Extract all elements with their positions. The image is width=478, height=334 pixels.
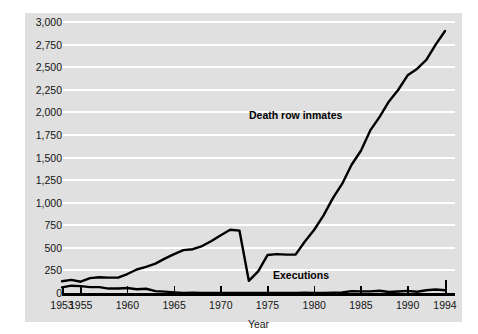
y-axis-tick-label: 1,250 [36, 175, 62, 186]
y-axis-labels: 02505007501,0001,2501,5001,7502,0002,250… [25, 13, 62, 322]
x-axis-title: Year [62, 318, 455, 330]
y-axis-tick-label: 500 [44, 243, 62, 254]
y-axis-tick-label: 2,000 [36, 107, 62, 118]
series-line-executions [62, 286, 445, 293]
x-axis-tick-label: 1985 [349, 300, 372, 311]
x-axis-tick-label: 1955 [69, 300, 92, 311]
x-axis-tick-mark [360, 286, 362, 294]
y-axis-tick-label: 2,250 [36, 85, 62, 96]
y-axis-tick-label: 2,500 [36, 62, 62, 73]
annotation-death-row-inmates: Death row inmates [249, 110, 342, 121]
y-axis-tick-label: 1,750 [36, 130, 62, 141]
x-axis-tick-mark [80, 286, 82, 294]
y-axis-tick-label: 1,000 [36, 198, 62, 209]
data-series-layer [62, 22, 455, 293]
y-axis-tick-label: 3,000 [36, 17, 62, 28]
x-axis-tick-mark [62, 286, 64, 294]
x-axis-tick-mark [220, 286, 222, 294]
x-axis-tick-mark [174, 286, 176, 294]
x-axis-tick-label: 1970 [209, 300, 232, 311]
y-axis-tick-label: 1,500 [36, 153, 62, 164]
y-axis-tick-label: 750 [44, 220, 62, 231]
x-axis-tick-mark [267, 286, 269, 294]
x-axis-tick-label: 1965 [162, 300, 185, 311]
y-axis-tick-label: 250 [44, 265, 62, 276]
x-axis-tick-mark [127, 286, 129, 294]
plot-area: 1953195519601965197019751980198519901994… [62, 22, 455, 293]
series-line-death-row-inmates [62, 31, 445, 282]
y-axis-tick-label: 2,750 [36, 40, 62, 51]
x-axis-tick-label: 1975 [256, 300, 279, 311]
x-axis-tick-label: 1980 [303, 300, 326, 311]
x-axis-tick-mark [407, 286, 409, 294]
x-axis-line [62, 293, 455, 296]
x-axis-tick-label: 1960 [116, 300, 139, 311]
annotation-executions: Executions [273, 270, 329, 281]
x-axis-tick-label: 1994 [433, 300, 456, 311]
x-axis-tick-label: 1990 [396, 300, 419, 311]
x-axis-tick-mark [314, 286, 316, 294]
x-axis-end-tick [445, 280, 447, 294]
chart-figure: 02505007501,0001,2501,5001,7502,0002,250… [0, 0, 478, 334]
